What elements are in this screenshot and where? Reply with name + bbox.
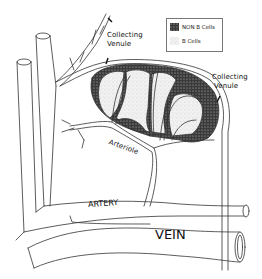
vein-label: VEIN xyxy=(155,228,186,241)
collecting-venule-top-label-line2: Venule xyxy=(107,41,131,48)
legend-item-non-b-cells: NON B Cells xyxy=(170,23,215,31)
legend-label: B Cells xyxy=(182,38,201,44)
legend: NON B Cells B Cells xyxy=(166,18,223,52)
legend-label: NON B Cells xyxy=(182,24,215,30)
collecting-venule-right-label-line1: Collecting xyxy=(212,74,248,81)
vascular-diagram: NON B Cells B Cells Collecting Venule Co… xyxy=(0,0,262,279)
collecting-venule-top-label-line1: Collecting xyxy=(107,32,143,39)
collecting-venule-right-label-line2: Venule xyxy=(214,83,238,90)
dark-stipple-swatch-icon xyxy=(170,23,179,31)
light-stipple-swatch-icon xyxy=(170,37,179,45)
legend-item-b-cells: B Cells xyxy=(170,37,201,45)
